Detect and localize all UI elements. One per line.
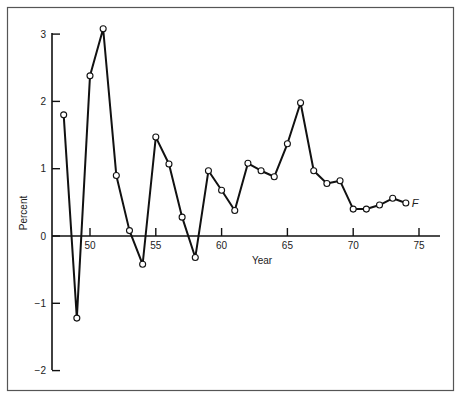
- data-point: [126, 228, 132, 234]
- data-point: [324, 181, 330, 187]
- data-point: [61, 112, 67, 118]
- data-point: [140, 261, 146, 267]
- x-tick-label: 60: [216, 240, 228, 251]
- y-tick-label: 1: [40, 163, 46, 174]
- data-point: [113, 172, 119, 178]
- chart-frame: [8, 8, 454, 391]
- data-point: [205, 168, 211, 174]
- data-point: [350, 206, 356, 212]
- x-tick-label: 70: [348, 240, 360, 251]
- data-point: [311, 168, 317, 174]
- data-point: [271, 174, 277, 180]
- data-point: [337, 178, 343, 184]
- data-point: [298, 100, 304, 106]
- data-point: [153, 134, 159, 140]
- data-point: [166, 161, 172, 167]
- y-axis-ticks: 3210−1−2: [35, 29, 60, 377]
- x-tick-label: 75: [413, 240, 425, 251]
- y-tick-label: −1: [35, 298, 47, 309]
- y-axis-label: Percent: [18, 196, 29, 231]
- data-point: [245, 160, 251, 166]
- y-tick-label: −2: [35, 365, 47, 376]
- x-tick-label: 55: [150, 240, 162, 251]
- data-point: [232, 207, 238, 213]
- x-axis-label: Year: [252, 255, 273, 266]
- data-point: [377, 202, 383, 208]
- forecast-label: F: [412, 197, 420, 209]
- data-point: [403, 200, 409, 206]
- data-point: [192, 255, 198, 261]
- data-point: [219, 187, 225, 193]
- x-tick-label: 65: [282, 240, 294, 251]
- data-point: [87, 73, 93, 79]
- line-chart: 3210−1−2 505560657075 Year Percent F: [0, 0, 459, 399]
- data-point: [74, 315, 80, 321]
- data-point: [100, 26, 106, 32]
- data-point: [284, 141, 290, 147]
- data-point: [179, 214, 185, 220]
- data-point: [258, 168, 264, 174]
- series-markers: [61, 26, 409, 321]
- data-point: [390, 195, 396, 201]
- y-tick-label: 2: [40, 96, 46, 107]
- y-tick-label: 3: [40, 29, 46, 40]
- x-tick-label: 50: [84, 240, 96, 251]
- data-point: [363, 206, 369, 212]
- y-tick-label: 0: [40, 231, 46, 242]
